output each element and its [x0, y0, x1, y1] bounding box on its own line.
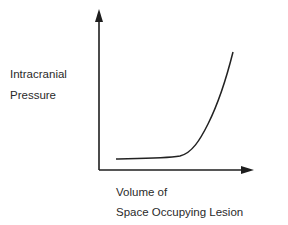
x-axis-arrow-icon — [241, 166, 254, 174]
y-axis-label-line1: Intracranial — [10, 68, 67, 81]
y-axis-arrow-icon — [95, 9, 103, 22]
y-axis-label-line2: Pressure — [10, 89, 56, 102]
x-axis-label-line1: Volume of — [116, 186, 167, 199]
x-axis-label-line2: Space Occupying Lesion — [116, 206, 243, 219]
pressure-volume-curve — [116, 52, 233, 159]
